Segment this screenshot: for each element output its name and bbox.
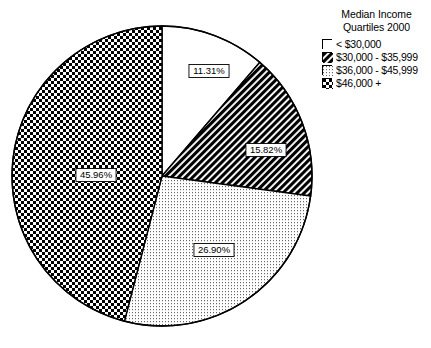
legend-item[interactable]: < $30,000 (322, 38, 431, 50)
legend-title-line-2: Quartiles 2000 (322, 21, 431, 34)
slice-value-label: 15.82% (250, 144, 283, 155)
legend-swatch-diagonal-hatch (322, 52, 332, 62)
legend-items: < $30,000$30,000 - $35,999$36,000 - $45,… (322, 38, 431, 89)
legend-swatch-checkerboard (322, 78, 332, 88)
legend-item[interactable]: $36,000 - $45,999 (322, 64, 431, 76)
legend-item[interactable]: $46,000 + (322, 77, 431, 89)
legend-swatch-fine-dots (322, 65, 332, 75)
legend-title-line-1: Median Income (322, 8, 431, 21)
legend-title: Median Income Quartiles 2000 (322, 8, 431, 34)
pie-slices-group (12, 26, 312, 326)
slice-value-label: 26.90% (198, 244, 231, 255)
legend-item-label: $46,000 + (336, 77, 381, 89)
slice-value-label: 11.31% (193, 65, 225, 76)
legend-item-label: $36,000 - $45,999 (336, 64, 418, 76)
slice-value-label: 45.96% (80, 169, 113, 180)
legend: Median Income Quartiles 2000 < $30,000$3… (322, 8, 431, 90)
pie-chart-figure: 11.31%15.82%26.90%45.96% Median Income Q… (0, 0, 431, 348)
legend-swatch-solid-white (322, 39, 332, 49)
legend-item-label: $30,000 - $35,999 (336, 51, 418, 63)
legend-item-label: < $30,000 (336, 38, 381, 50)
legend-item[interactable]: $30,000 - $35,999 (322, 51, 431, 63)
